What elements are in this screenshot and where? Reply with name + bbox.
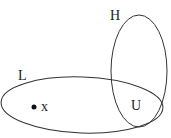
label-x: x — [41, 99, 48, 114]
label-h: H — [110, 8, 120, 23]
label-l: L — [18, 68, 27, 83]
label-u: U — [131, 98, 141, 113]
venn-diagram: L H U x — [0, 0, 171, 138]
point-x-dot — [32, 105, 37, 110]
